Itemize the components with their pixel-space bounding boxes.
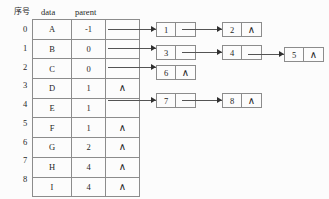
row-index-label: 3 bbox=[20, 80, 30, 90]
node-value: 7 bbox=[157, 94, 176, 107]
column-header-index: 序号 bbox=[14, 7, 30, 17]
node-value: 2 bbox=[223, 23, 242, 36]
arrowhead-node4-to-node5 bbox=[279, 51, 284, 57]
row-index-label: 5 bbox=[20, 118, 30, 128]
connector-row4-to-node7 bbox=[108, 100, 156, 101]
arrowhead-node3-to-node4 bbox=[217, 49, 222, 55]
list-node-8: 8 ∧ bbox=[222, 93, 262, 108]
cell-parent: 4 bbox=[72, 177, 106, 197]
arrowhead-row4-to-node7 bbox=[151, 97, 156, 103]
null-pointer-icon: ∧ bbox=[119, 142, 126, 152]
cell-firstchild-pointer bbox=[106, 39, 140, 59]
connector-row1-to-node3 bbox=[108, 48, 156, 49]
arrowhead-row2-to-node6 bbox=[151, 64, 156, 70]
node-value: 5 bbox=[285, 48, 304, 61]
parent-array-table: A -1 B 0 C 0 D 1 ∧ bbox=[32, 19, 136, 188]
node-next-null: ∧ bbox=[304, 48, 323, 61]
cell-parent: 1 bbox=[72, 118, 106, 138]
cell-parent: 2 bbox=[72, 138, 106, 158]
column-header-parent: parent bbox=[75, 7, 96, 17]
table-row: C 0 bbox=[33, 59, 140, 79]
table-row: D 1 ∧ bbox=[33, 79, 140, 99]
null-pointer-icon: ∧ bbox=[182, 68, 189, 78]
row-index-label: 2 bbox=[20, 62, 30, 72]
connector-node7-to-node8 bbox=[182, 100, 222, 101]
null-pointer-icon: ∧ bbox=[119, 162, 126, 172]
node-next-null: ∧ bbox=[176, 66, 195, 79]
null-pointer-icon: ∧ bbox=[119, 83, 126, 93]
node-value: 6 bbox=[157, 66, 176, 79]
cell-data: G bbox=[33, 138, 72, 158]
cell-firstchild-null: ∧ bbox=[106, 138, 140, 158]
figure-canvas: 序号 data parent 0 1 2 3 4 5 6 7 8 A -1 B … bbox=[0, 0, 329, 199]
null-pointer-icon: ∧ bbox=[119, 182, 126, 192]
cell-data: D bbox=[33, 79, 72, 99]
list-node-6: 6 ∧ bbox=[156, 65, 196, 80]
cell-data: B bbox=[33, 39, 72, 59]
null-pointer-icon: ∧ bbox=[119, 123, 126, 133]
cell-firstchild-pointer bbox=[106, 98, 140, 118]
cell-data: H bbox=[33, 157, 72, 177]
list-node-2: 2 ∧ bbox=[222, 22, 262, 37]
cell-firstchild-null: ∧ bbox=[106, 177, 140, 197]
connector-row2-to-node6 bbox=[108, 67, 156, 68]
cell-firstchild-null: ∧ bbox=[106, 79, 140, 99]
cell-data: A bbox=[33, 20, 72, 40]
node-value: 8 bbox=[223, 94, 242, 107]
cell-data: F bbox=[33, 118, 72, 138]
cell-parent: -1 bbox=[72, 20, 106, 40]
list-node-5: 5 ∧ bbox=[284, 47, 324, 62]
connector-node1-to-node2 bbox=[182, 29, 222, 30]
arrowhead-node1-to-node2 bbox=[217, 26, 222, 32]
cell-data: C bbox=[33, 59, 72, 79]
node-value: 4 bbox=[223, 46, 242, 59]
cell-parent: 0 bbox=[72, 59, 106, 79]
null-pointer-icon: ∧ bbox=[248, 25, 255, 35]
cell-data: E bbox=[33, 98, 72, 118]
node-next-pointer bbox=[242, 46, 261, 59]
connector-node3-to-node4 bbox=[182, 52, 222, 53]
row-index-label: 0 bbox=[20, 24, 30, 34]
cell-firstchild-null: ∧ bbox=[106, 157, 140, 177]
node-value: 1 bbox=[157, 23, 176, 36]
arrowhead-node7-to-node8 bbox=[217, 97, 222, 103]
connector-row0-to-node1 bbox=[108, 29, 156, 30]
table-row: G 2 ∧ bbox=[33, 138, 140, 158]
cell-firstchild-null: ∧ bbox=[106, 118, 140, 138]
row-index-label: 1 bbox=[20, 43, 30, 53]
cell-parent: 1 bbox=[72, 98, 106, 118]
table-row: B 0 bbox=[33, 39, 140, 59]
cell-data: I bbox=[33, 177, 72, 197]
column-header-data: data bbox=[41, 7, 55, 17]
node-next-null: ∧ bbox=[242, 94, 261, 107]
table-row: H 4 ∧ bbox=[33, 157, 140, 177]
table-row: I 4 ∧ bbox=[33, 177, 140, 197]
node-next-null: ∧ bbox=[242, 23, 261, 36]
list-node-4: 4 bbox=[222, 45, 262, 60]
cell-parent: 1 bbox=[72, 79, 106, 99]
table-row: E 1 bbox=[33, 98, 140, 118]
null-pointer-icon: ∧ bbox=[310, 50, 317, 60]
arrowhead-row1-to-node3 bbox=[151, 45, 156, 51]
cell-parent: 4 bbox=[72, 157, 106, 177]
row-index-label: 8 bbox=[20, 174, 30, 184]
arrowhead-row0-to-node1 bbox=[151, 26, 156, 32]
table-row: F 1 ∧ bbox=[33, 118, 140, 138]
null-pointer-icon: ∧ bbox=[248, 96, 255, 106]
row-index-label: 4 bbox=[20, 99, 30, 109]
cell-parent: 0 bbox=[72, 39, 106, 59]
cell-firstchild-pointer bbox=[106, 59, 140, 79]
row-index-label: 7 bbox=[20, 155, 30, 165]
row-index-label: 6 bbox=[20, 137, 30, 147]
node-value: 3 bbox=[157, 46, 176, 59]
